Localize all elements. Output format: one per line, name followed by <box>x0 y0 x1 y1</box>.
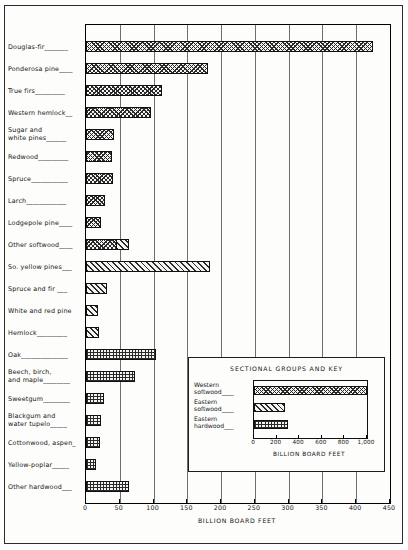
category-label: Spruce and fir ___ <box>8 285 86 293</box>
x-tick-label: 400 <box>349 504 362 511</box>
category-label: Larch____________ <box>8 197 86 205</box>
legend-swatch-bar <box>254 386 367 395</box>
x-tick-label: 0 <box>83 504 87 511</box>
bar <box>86 85 162 96</box>
x-tick-label: 450 <box>383 504 396 511</box>
category-label: Spruce___________ <box>8 175 86 183</box>
category-label: Redwood_________ <box>8 153 86 161</box>
bar <box>86 327 99 338</box>
category-label: White and red pine <box>8 307 86 315</box>
bar <box>86 371 135 382</box>
legend-x-tick-label: 600 <box>315 439 326 445</box>
legend-swatch-bar <box>254 403 285 412</box>
x-tick <box>153 499 154 503</box>
bar-row: Ponderosa pine____ <box>86 63 390 74</box>
legend-x-tick-label: 400 <box>293 439 304 445</box>
bar <box>86 173 113 184</box>
legend-label: Western softwood____ <box>194 381 254 396</box>
x-tick-label: 150 <box>180 504 193 511</box>
bar <box>86 437 100 448</box>
bar <box>86 481 129 492</box>
category-label: Sugar and white pines______ <box>8 126 86 142</box>
legend-inset: SECTIONAL GROUPS AND KEY Western softwoo… <box>188 357 385 472</box>
bar <box>86 217 101 228</box>
bar-row: Western hemlock__ <box>86 107 390 118</box>
x-tick <box>355 499 356 503</box>
legend-x-tick <box>253 435 254 438</box>
bar <box>86 41 373 52</box>
category-label: True firs_________ <box>8 87 86 95</box>
bar-row: Hemlock_________ <box>86 327 390 338</box>
bar-segment-eastern <box>116 239 129 250</box>
legend-x-tick <box>343 435 344 438</box>
bar-row: Sugar and white pines______ <box>86 129 390 140</box>
bar-row: Other softwood____ <box>86 239 390 250</box>
bar-row: White and red pine <box>86 305 390 316</box>
legend-x-tick-label: 0 <box>251 439 255 445</box>
bar <box>86 107 151 118</box>
bar-row: Lodgepole pine____ <box>86 217 390 228</box>
category-label: Other softwood____ <box>8 241 86 249</box>
bar <box>86 151 112 162</box>
x-tick <box>186 499 187 503</box>
legend-x-axis-title: BILLION BOARD FEET <box>229 451 389 457</box>
legend-row: Eastern hardwood___ <box>254 420 367 429</box>
bar-row: Spruce___________ <box>86 173 390 184</box>
bar <box>86 305 98 316</box>
bar <box>86 349 156 360</box>
category-label: Blackgum and water tupelo_____ <box>8 412 86 428</box>
bar <box>86 415 101 426</box>
bar-row: True firs_________ <box>86 85 390 96</box>
x-tick <box>119 499 120 503</box>
bar <box>86 195 105 206</box>
bar-row: So. yellow pines___ <box>86 261 390 272</box>
legend-row: Western softwood____ <box>254 386 367 395</box>
x-tick-label: 100 <box>146 504 159 511</box>
legend-x-tick <box>276 435 277 438</box>
legend-x-tick <box>298 435 299 438</box>
legend-row: Eastern softwood____ <box>254 403 367 412</box>
bar <box>86 393 104 404</box>
x-tick <box>85 499 86 503</box>
bar-row: Douglas-fir_______ <box>86 41 390 52</box>
legend-plot-area: Western softwood____Eastern softwood____… <box>253 380 368 439</box>
legend-x-tick-label: 800 <box>338 439 349 445</box>
x-tick-label: 50 <box>115 504 123 511</box>
bar <box>86 239 129 250</box>
bar <box>86 459 96 470</box>
category-label: Other hardwood___ <box>8 483 86 491</box>
x-tick <box>321 499 322 503</box>
legend-swatch-bar <box>254 420 288 429</box>
category-label: Douglas-fir_______ <box>8 43 86 51</box>
x-tick-label: 350 <box>315 504 328 511</box>
figure-frame: Douglas-fir_______Ponderosa pine____True… <box>4 5 403 544</box>
category-label: Hemlock_________ <box>8 329 86 337</box>
legend-x-tick <box>366 435 367 438</box>
legend-label: Eastern softwood____ <box>194 398 254 413</box>
x-tick-label: 300 <box>281 504 294 511</box>
bar-segment-western <box>86 239 117 250</box>
legend-label: Eastern hardwood___ <box>194 415 254 430</box>
category-label: Sweetgum________ <box>8 395 86 403</box>
legend-title: SECTIONAL GROUPS AND KEY <box>189 365 384 372</box>
x-tick <box>389 499 390 503</box>
category-label: Ponderosa pine____ <box>8 65 86 73</box>
x-axis-title: BILLION BOARD FEET <box>85 517 389 524</box>
bar <box>86 63 208 74</box>
category-label: Western hemlock__ <box>8 109 86 117</box>
bar-row: Larch____________ <box>86 195 390 206</box>
x-tick <box>288 499 289 503</box>
category-label: Lodgepole pine____ <box>8 219 86 227</box>
x-tick <box>220 499 221 503</box>
x-tick-label: 200 <box>214 504 227 511</box>
category-label: Yellow-poplar_____ <box>8 461 86 469</box>
bar-row: Redwood_________ <box>86 151 390 162</box>
legend-x-tick <box>321 435 322 438</box>
bar <box>86 129 114 140</box>
bar <box>86 283 107 294</box>
bar-row: Other hardwood___ <box>86 481 390 492</box>
x-tick <box>254 499 255 503</box>
category-label: Oak______________ <box>8 351 86 359</box>
category-label: Cottonwood, aspen_ <box>8 439 86 447</box>
legend-x-tick-label: 200 <box>270 439 281 445</box>
